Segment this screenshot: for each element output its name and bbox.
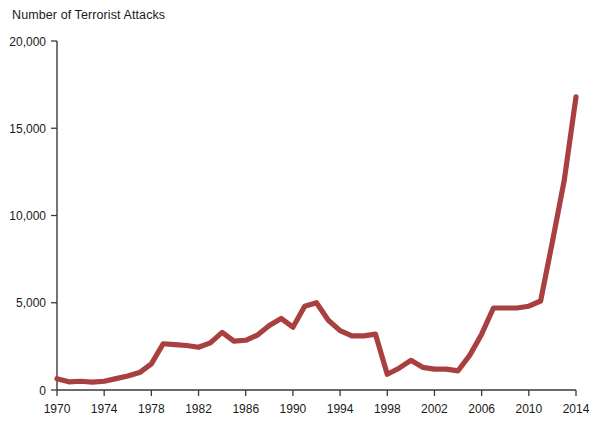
y-axis: 05,00010,00015,00020,000 bbox=[9, 35, 57, 398]
y-axis-tick-label: 0 bbox=[39, 384, 46, 398]
x-axis-tick-label: 1986 bbox=[232, 402, 259, 416]
x-axis: 1970197419781982198619901994199820022006… bbox=[44, 390, 590, 416]
x-axis-tick-label: 1998 bbox=[374, 402, 401, 416]
series-line-0 bbox=[57, 97, 576, 382]
y-axis-tick-label: 15,000 bbox=[9, 122, 46, 136]
y-axis-tick-label: 20,000 bbox=[9, 35, 46, 49]
x-axis-tick-label: 2014 bbox=[563, 402, 590, 416]
line-chart-plot: 05,00010,00015,00020,000 197019741978198… bbox=[0, 0, 602, 428]
x-axis-tick-label: 1970 bbox=[44, 402, 71, 416]
x-axis-tick-label: 1982 bbox=[185, 402, 212, 416]
x-axis-tick-label: 1978 bbox=[138, 402, 165, 416]
chart-container: Number of Terrorist Attacks 05,00010,000… bbox=[0, 0, 602, 428]
y-axis-tick-label: 10,000 bbox=[9, 209, 46, 223]
x-axis-tick-label: 2002 bbox=[421, 402, 448, 416]
x-axis-tick-label: 1994 bbox=[327, 402, 354, 416]
y-axis-tick-label: 5,000 bbox=[16, 296, 46, 310]
data-series-group bbox=[57, 97, 576, 382]
x-axis-tick-label: 2010 bbox=[515, 402, 542, 416]
x-axis-tick-label: 2006 bbox=[468, 402, 495, 416]
x-axis-tick-label: 1974 bbox=[91, 402, 118, 416]
x-axis-tick-label: 1990 bbox=[280, 402, 307, 416]
